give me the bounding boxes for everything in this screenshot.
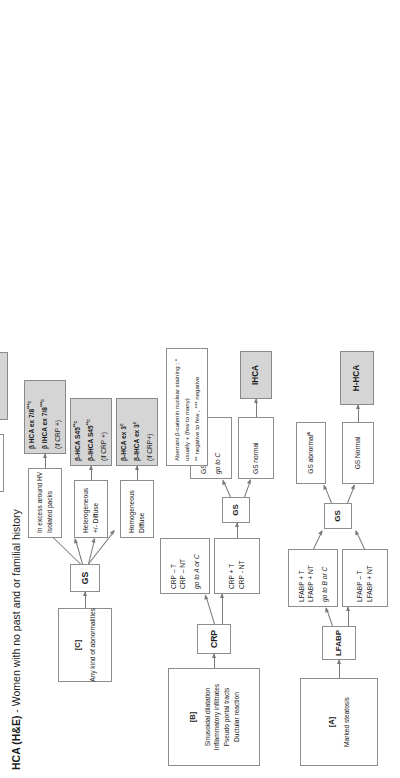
section-a-branch-neg-line2: LFABP + NT xyxy=(365,554,375,602)
section-a-outcome-label: H-HCA xyxy=(351,365,363,391)
section-a-gs-abnormal-label: GS abnormal xyxy=(307,435,314,474)
section-b-branch-positive-box: CRP + T CRP - NT xyxy=(214,538,260,594)
arrow-crp-to-negative xyxy=(205,595,215,624)
arrow-a-gs-to-abnormal xyxy=(324,485,332,503)
result-excess-1-sup: ***c xyxy=(27,401,32,409)
arrow-c-criteria-to-gs xyxy=(85,592,86,608)
footnote-box: Aberrant β-catenin nuclear staining : * … xyxy=(166,348,208,466)
section-a-branch-pos-line2: LFABP + NT xyxy=(306,554,316,602)
result-homogeneous-1: β-HCA ex 3 xyxy=(120,426,127,461)
branch-excess-line2: Isolated packs xyxy=(45,473,55,533)
section-a-marker-label: LFABP xyxy=(333,630,345,656)
section-b-marker-crp: CRP xyxy=(197,624,231,654)
arrow-a-normal-to-outcome xyxy=(358,405,359,422)
figure-title-rest: - Women with no past and or familial his… xyxy=(10,509,22,715)
section-a-gs-abnormal-box: GS abnormala xyxy=(296,422,326,484)
section-a-criteria-box: [A] Marked steatosis xyxy=(300,678,378,766)
rotated-flowchart: HCA (H&E) - Women with no past and or fa… xyxy=(0,0,400,778)
arrow-b-criteria-to-crp xyxy=(214,654,215,668)
result-homogeneous-2-sup: c xyxy=(132,422,137,425)
figure-title: HCA (H&E) - Women with no past and or fa… xyxy=(10,509,22,770)
section-b-outcome-label: IHCA xyxy=(250,365,262,385)
footnote-line-2: ** negative to few , *** negative xyxy=(192,353,202,461)
section-b-gs-abnormal-goto: go to C xyxy=(213,422,223,474)
flowchart-canvas: HCA (H&E) - Women with no past and or fa… xyxy=(0,0,400,778)
section-a-tag: [A] xyxy=(326,717,337,728)
arrow-b-pos-to-gs xyxy=(237,523,238,538)
branch-heterogeneous-line2: +/- Diffuse xyxy=(91,485,101,533)
section-a-branch-positive-box: LFABP + T LFABP + NT go to B or C xyxy=(288,549,338,607)
arrow-excess-to-result xyxy=(45,454,46,468)
arrow-b-gs-to-abnormal xyxy=(223,480,231,497)
section-c-criterion: Any kind of abnormalities xyxy=(88,608,98,682)
section-a-marker-lfabp: LFABP xyxy=(322,626,356,660)
result-homogeneous-condition: (if CRP+) xyxy=(145,403,155,461)
result-excess-2-sup: ***c xyxy=(40,399,45,407)
arrow-a-neg-to-gs xyxy=(356,531,365,550)
section-b-criterion-1: Sinusoidal dilatation xyxy=(203,688,213,747)
section-b-gs-normal-label: GS normal xyxy=(251,422,261,474)
arrow-b-gs-to-normal xyxy=(244,480,251,497)
arrow-homogeneous-to-result xyxy=(137,466,138,480)
footnote-line-1: Aberrant β-catenin nuclear staining : * … xyxy=(172,353,192,461)
section-c-criteria-box: [C] Any kind of abnormalities xyxy=(58,608,112,682)
result-heterogeneous-2-sup: **c xyxy=(86,419,91,425)
section-b-branch-pos-line2: CRP - NT xyxy=(237,543,247,589)
section-c-marker-gs: GS xyxy=(70,564,100,592)
section-b-criterion-3: Pseudo portal tracts xyxy=(222,688,232,747)
section-b-tag: [B] xyxy=(187,712,198,723)
section-c-branch-excess-pattern: In excess around HV Isolated packs xyxy=(28,468,62,538)
section-b-branch-neg-line1: CRP – T xyxy=(169,543,179,589)
section-b-gs-normal-box: GS normal xyxy=(238,417,274,479)
arrow-crp-to-positive xyxy=(222,594,223,624)
branch-excess-line1: In excess around HV xyxy=(35,473,45,533)
section-c-branch-homogeneous-pattern: Homogeneous Diffuse xyxy=(120,480,154,538)
branch-heterogeneous-line1: Heterogeneous xyxy=(81,485,91,533)
section-a-gs-abnormal-sup: a xyxy=(306,432,311,435)
section-b-criteria-box: [B] Sinusoidal dilatation Inflammatory i… xyxy=(168,668,260,766)
branch-homogeneous-line2: Diffuse xyxy=(137,485,147,533)
section-a-branch-negative-box: LFABP – T LFABP + NT xyxy=(342,549,388,607)
result-excess-condition: (if CRP +) xyxy=(53,385,63,449)
section-c-tag: [C] xyxy=(72,640,83,651)
section-c-result-uhca: UHCA (if LFABP+, CRP –) xyxy=(0,352,8,420)
section-a-branch-neg-line1: LFABP – T xyxy=(355,554,365,602)
section-a-outcome-hhca: H-HCA xyxy=(340,351,374,405)
section-a-gs-label: GS xyxy=(332,510,344,522)
section-c-result-excess: β HCA ex 7/8***c β IHCA ex 7/8***c (if C… xyxy=(24,380,66,454)
section-a-gs-box: GS xyxy=(324,503,352,529)
result-heterogeneous-condition: (if CRP +) xyxy=(99,403,109,461)
section-c-result-homogeneous: β-HCA ex 3c β-IHCA ex 3c (if CRP+) xyxy=(116,398,158,466)
branch-homogeneous-line1: Homogeneous xyxy=(127,485,137,533)
section-b-gs-box: GS xyxy=(222,497,250,523)
result-excess-2: β IHCA ex 7/8 xyxy=(41,407,48,449)
section-c-marker-label: GS xyxy=(79,572,91,584)
result-homogeneous-2: β-IHCA ex 3 xyxy=(133,424,140,461)
section-c-result-heterogeneous: β-HCA S45**c β-IHCA S45**c (if CRP +) xyxy=(70,398,112,466)
section-b-outcome-ihca: IHCA xyxy=(240,351,272,399)
arrow-a-gs-to-normal xyxy=(347,485,355,503)
result-heterogeneous-2: β-IHCA S45 xyxy=(87,425,94,461)
section-b-gs-label: GS xyxy=(230,504,242,516)
result-heterogeneous-1-sup: **c xyxy=(73,421,78,427)
result-heterogeneous-1: β-HCA S45 xyxy=(74,427,81,461)
section-a-branch-pos-line1: LFABP + T xyxy=(297,554,307,602)
result-homogeneous-1-sup: c xyxy=(119,424,124,427)
arrow-a-criteria-to-lfabp xyxy=(339,660,340,678)
section-a-criterion: Marked steatosis xyxy=(342,697,352,747)
arrow-b-normal-to-outcome xyxy=(256,399,257,417)
section-b-criterion-2: Inflammatory infiltrates xyxy=(212,684,222,750)
arrow-a-pos-to-gs xyxy=(313,531,323,549)
result-excess-1: β HCA ex 7/8 xyxy=(28,409,35,449)
section-b-branch-pos-line1: CRP + T xyxy=(227,543,237,589)
section-b-branch-negative-box: CRP – T CRP – NT go to A or C xyxy=(160,538,210,594)
section-b-branch-neg-goto: go to A or C xyxy=(192,543,202,589)
section-c-branch-heterogeneous-pattern: Heterogeneous +/- Diffuse xyxy=(74,480,108,538)
arrow-lfabp-to-positive xyxy=(326,608,333,626)
section-a-gs-normal-label: GS Normal xyxy=(353,437,363,470)
section-a-gs-normal-box: GS Normal xyxy=(342,422,374,484)
arrow-heterogeneous-to-result xyxy=(91,466,92,480)
section-b-criterion-4: Ductular reaction xyxy=(232,692,242,742)
arrow-lfabp-to-negative xyxy=(348,607,349,626)
figure-page: HCA (H&E) - Women with no past and or fa… xyxy=(0,0,400,778)
